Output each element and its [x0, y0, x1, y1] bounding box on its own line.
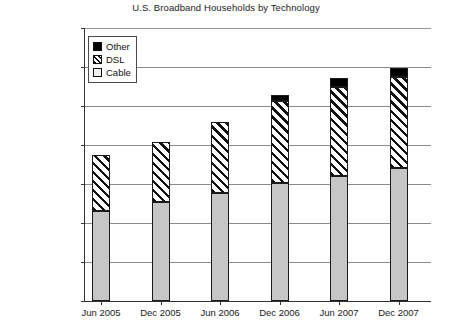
gridline [85, 262, 431, 263]
gridline [85, 106, 431, 107]
y-tick-mark [81, 184, 85, 185]
x-tick-label: Dec 2005 [140, 307, 181, 318]
y-tick-mark [81, 28, 85, 29]
chart-title: U.S. Broadband Households by Technology [0, 2, 452, 13]
x-tick-label: Jun 2005 [81, 307, 120, 318]
bar-segment-dsl[interactable] [152, 142, 170, 202]
x-tick-label: Dec 2006 [259, 307, 300, 318]
bar-segment-dsl[interactable] [92, 155, 110, 211]
x-tick-mark [161, 301, 162, 305]
legend-label-dsl: DSL [106, 54, 124, 65]
x-tick-label: Jun 2006 [200, 307, 239, 318]
bar-segment-cable[interactable] [92, 211, 110, 301]
bar-segment-dsl[interactable] [390, 77, 408, 168]
bar-segment-other[interactable] [330, 78, 348, 87]
legend-swatch-other-icon [93, 42, 102, 51]
y-tick-mark [81, 262, 85, 263]
gridline [85, 67, 431, 68]
gridline [85, 145, 431, 146]
bar-segment-other[interactable] [271, 95, 289, 100]
gridline [85, 223, 431, 224]
legend-label-other: Other [106, 41, 130, 52]
x-tick-mark [220, 301, 221, 305]
bar-segment-cable[interactable] [211, 193, 229, 301]
bar-segment-cable[interactable] [271, 183, 289, 301]
bar-segment-dsl[interactable] [330, 87, 348, 176]
legend-item-dsl: DSL [93, 53, 131, 66]
bar-segment-dsl[interactable] [211, 122, 229, 193]
y-tick-mark [81, 145, 85, 146]
legend-item-cable: Cable [93, 66, 131, 79]
y-tick-mark [81, 67, 85, 68]
x-tick-label: Jun 2007 [319, 307, 358, 318]
gridline [85, 28, 431, 29]
y-tick-mark [81, 301, 85, 302]
bar-segment-dsl[interactable] [271, 101, 289, 184]
x-tick-mark [399, 301, 400, 305]
legend-label-cable: Cable [106, 67, 131, 78]
bar-segment-cable[interactable] [390, 168, 408, 301]
bar-segment-other[interactable] [390, 68, 408, 77]
y-tick-mark [81, 223, 85, 224]
gridline [85, 184, 431, 185]
x-tick-label: Dec 2007 [378, 307, 419, 318]
x-tick-mark [280, 301, 281, 305]
bar-segment-cable[interactable] [152, 202, 170, 301]
chart-container: U.S. Broadband Households by Technology … [0, 0, 452, 322]
legend-item-other: Other [93, 40, 131, 53]
legend-swatch-cable-icon [93, 68, 102, 77]
legend-swatch-dsl-icon [93, 55, 102, 64]
x-tick-mark [339, 301, 340, 305]
bar-segment-cable[interactable] [330, 176, 348, 301]
chart-legend: Other DSL Cable [88, 36, 137, 83]
y-tick-mark [81, 106, 85, 107]
x-tick-mark [101, 301, 102, 305]
